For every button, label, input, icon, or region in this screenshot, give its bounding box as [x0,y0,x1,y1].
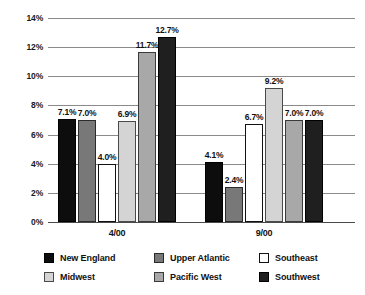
legend-label: Pacific West [170,272,222,282]
bar-group: 7.1%7.0%4.0%6.9%11.7%12.7% [58,18,176,222]
legend-item[interactable]: Pacific West [154,272,259,282]
legend-label: Southeast [275,253,318,263]
legend-item[interactable]: Southwest [259,272,349,282]
x-axis-category-label: 4/00 [109,228,126,238]
bar[interactable] [225,187,243,222]
legend-swatch-icon [259,272,269,282]
bar[interactable] [245,124,263,222]
bar-value-label: 12.7% [155,25,178,35]
plot-area: 0%2%4%6%8%10%12%14% 7.1%7.0%4.0%6.9%11.7… [48,18,355,222]
bar[interactable] [305,120,323,222]
y-axis-tick-label: 6% [31,130,43,140]
bar-value-label: 7.0% [285,108,304,118]
y-axis-tick-label: 8% [31,100,43,110]
chart-legend: New EnglandUpper AtlanticSoutheastMidwes… [44,248,349,286]
y-axis-tick-label: 2% [31,188,43,198]
legend-row: MidwestPacific WestSouthwest [44,267,349,286]
legend-swatch-icon [259,253,269,263]
x-axis-category-label: 9/00 [256,228,273,238]
bar[interactable] [58,119,76,222]
bar-value-label: 4.1% [205,150,224,160]
legend-item[interactable]: Southeast [259,253,349,263]
legend-swatch-icon [154,272,164,282]
bar-value-label: 2.4% [225,175,244,185]
bar-value-label: 11.7% [136,40,159,50]
legend-swatch-icon [44,253,54,263]
legend-swatch-icon [154,253,164,263]
bar-value-label: 7.1% [58,107,77,117]
legend-label: Southwest [275,272,320,282]
bar[interactable] [158,37,176,222]
bar-value-label: 6.7% [245,112,264,122]
legend-item[interactable]: Upper Atlantic [154,253,259,263]
bar-value-label: 6.9% [118,109,137,119]
bar-value-label: 9.2% [265,76,284,86]
y-axis-tick-label: 10% [27,71,43,81]
x-axis-line [48,222,355,223]
bar-group: 4.1%2.4%6.7%9.2%7.0%7.0% [205,18,323,222]
bar[interactable] [205,162,223,222]
legend-item[interactable]: New England [44,253,154,263]
bar-chart: 0%2%4%6%8%10%12%14% 7.1%7.0%4.0%6.9%11.7… [0,0,365,295]
bar[interactable] [265,88,283,222]
legend-label: New England [60,253,115,263]
y-axis-tick-label: 4% [31,159,43,169]
bar-value-label: 7.0% [305,108,324,118]
legend-label: Upper Atlantic [170,253,230,263]
y-axis-tick-label: 12% [27,42,43,52]
bar[interactable] [98,164,116,222]
legend-item[interactable]: Midwest [44,272,154,282]
y-axis-tick-label: 0% [31,217,43,227]
bar[interactable] [285,120,303,222]
legend-row: New EnglandUpper AtlanticSoutheast [44,248,349,267]
y-axis-tick-label: 14% [27,13,43,23]
bar-value-label: 4.0% [98,152,117,162]
legend-swatch-icon [44,272,54,282]
bar[interactable] [118,121,136,222]
bar[interactable] [138,52,156,222]
bar[interactable] [78,120,96,222]
bar-value-label: 7.0% [78,108,97,118]
legend-label: Midwest [60,272,95,282]
